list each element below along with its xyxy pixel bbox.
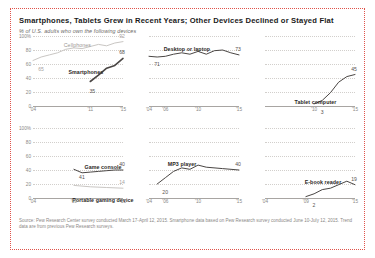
x-axis-tick-label: '15 [236,199,242,204]
y-axis-tick-label: 100% [19,126,31,131]
end-value-label: 73 [235,46,241,52]
y-axis-tick-label: 20 [26,90,31,95]
line-portable-gaming-device [74,185,123,188]
start-value-label: 20 [162,189,168,195]
y-axis-tick-label: 100% [19,34,31,39]
series-lines [33,128,123,198]
source-note: Source: Pew Research Center survey condu… [19,218,357,230]
x-axis-tick-label: '11 [87,107,93,112]
x-axis-tick-label: '15 [236,107,242,112]
y-axis-tick-label: 60 [26,154,31,159]
x-axis-tick-label: '04 [30,199,36,204]
panel-game-console: 100%8060402004140Game console14Portable … [19,128,123,214]
y-axis [251,36,264,106]
plot-area: 2040MP3 player [149,128,239,198]
plot-area: 345Tablet computer [265,36,355,106]
y-axis-tick-label: 60 [26,62,31,67]
series-label: Game console [84,164,121,170]
x-axis-tick-label: '09 [71,199,77,204]
series-label: MP3 player [168,161,197,167]
x-axis: '04'09'15 [265,199,355,211]
x-axis-tick-label: '04 [30,107,36,112]
start-value-label: 35 [89,88,95,94]
x-axis-tick-label: '09 [303,199,309,204]
start-value-label: 71 [154,61,160,67]
x-axis: '04'06'10'15 [149,107,239,119]
end-value-label: 45 [351,66,357,72]
y-axis [135,128,148,198]
series-label: Desktop or laptop [164,46,210,52]
panel-ebook-reader: 219E-book reader'04'09'15 [251,128,355,214]
line-mp3-player [157,165,239,184]
start-value-label: 41 [79,174,85,180]
end-value-label: 92 [119,33,125,39]
y-axis: 100%806040200 [19,128,32,198]
panel-cellphones-smartphones: 100%8060402006592Cellphones3568Smartphon… [19,36,123,122]
x-axis-tick-label: '10 [195,199,201,204]
small-multiples-grid: 100%8060402006592Cellphones3568Smartphon… [19,36,357,214]
chart-figure-border: Smartphones, Tablets Grew in Recent Year… [10,8,365,250]
x-axis-tick-label: '10 [311,107,317,112]
series-lines [265,36,355,106]
y-axis: 100%806040200 [19,36,32,106]
series-lines [265,128,355,198]
chart-subtitle: % of U.S. adults who own the following d… [19,28,357,34]
y-axis-tick-label: 20 [26,182,31,187]
panel-desktop-or-laptop: 7173Desktop or laptop'04'06'10'15 [135,36,239,122]
x-axis-tick-label: '04 [262,199,268,204]
x-axis: '04'11'15 [33,107,123,119]
end-value-label: 68 [119,49,125,55]
start-value-label: 65 [38,66,44,72]
series-label: Tablet computer [294,99,336,105]
y-axis-tick-label: 40 [26,168,31,173]
plot-area: 7173Desktop or laptop [149,36,239,106]
x-axis-tick-label: '15 [352,107,358,112]
plot-area: 4140Game console14Portable gaming device [33,128,123,198]
x-axis-tick-label: '06 [162,199,168,204]
plot-area: 6592Cellphones3568Smartphones [33,36,123,106]
end-value-label: 14 [119,179,125,185]
page-title: Smartphones, Tablets Grew in Recent Year… [19,16,357,25]
panel-tablet-computer: 345Tablet computer'10'15 [251,36,355,122]
x-axis-tick-label: '15 [120,199,126,204]
x-axis-tick-label: '06 [162,107,168,112]
y-axis [251,128,264,198]
end-value-label: 19 [351,176,357,182]
x-axis-tick-label: '04 [146,199,152,204]
series-label: E-book reader [305,179,342,185]
series-label: Smartphones [68,69,103,75]
y-axis [135,36,148,106]
y-axis-tick-label: 40 [26,76,31,81]
plot-area: 219E-book reader [265,128,355,198]
panel-mp3-player: 2040MP3 player'04'06'10'15 [135,128,239,214]
x-axis: '10'15 [265,107,355,119]
x-axis: '04'06'10'15 [149,199,239,211]
x-axis-tick-label: '15 [120,107,126,112]
end-value-label: 40 [235,161,241,167]
x-axis-tick-label: '04 [146,107,152,112]
x-axis-tick-label: '10 [195,107,201,112]
x-axis-tick-label: '15 [352,199,358,204]
series-label: Cellphones [64,42,91,48]
y-axis-tick-label: 80 [26,48,31,53]
x-axis: '04'09'15 [33,199,123,211]
y-axis-tick-label: 80 [26,140,31,145]
